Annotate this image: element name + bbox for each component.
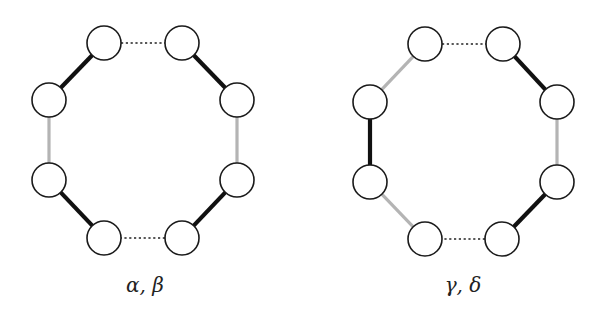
black-edge — [61, 192, 93, 225]
gray-edge — [382, 56, 414, 89]
ring-node — [32, 163, 66, 197]
black-edge — [194, 55, 225, 88]
ring-node — [408, 222, 442, 256]
panel-alpha-beta: α, β — [32, 26, 254, 297]
black-edge — [515, 56, 546, 89]
ring-node — [353, 165, 387, 199]
octagon-ring-diagrams: α, β γ, δ — [0, 0, 609, 309]
black-edge — [61, 55, 92, 88]
panel-label: γ, δ — [445, 273, 482, 297]
ring-node — [165, 26, 199, 60]
ring-node — [87, 26, 121, 60]
ring-node — [220, 163, 254, 197]
ring-node — [540, 165, 574, 199]
panel-gamma-delta: γ, δ — [353, 27, 574, 297]
ring-node — [87, 221, 121, 255]
black-edge — [514, 194, 545, 227]
gray-edge — [382, 194, 413, 227]
ring-node — [32, 83, 66, 117]
ring-node — [165, 221, 199, 255]
ring-node — [220, 83, 254, 117]
ring-node — [485, 222, 519, 256]
black-edge — [194, 192, 226, 225]
panel-label: α, β — [126, 273, 164, 297]
ring-node — [353, 85, 387, 119]
ring-node — [540, 85, 574, 119]
ring-node — [408, 27, 442, 61]
ring-node — [486, 27, 520, 61]
